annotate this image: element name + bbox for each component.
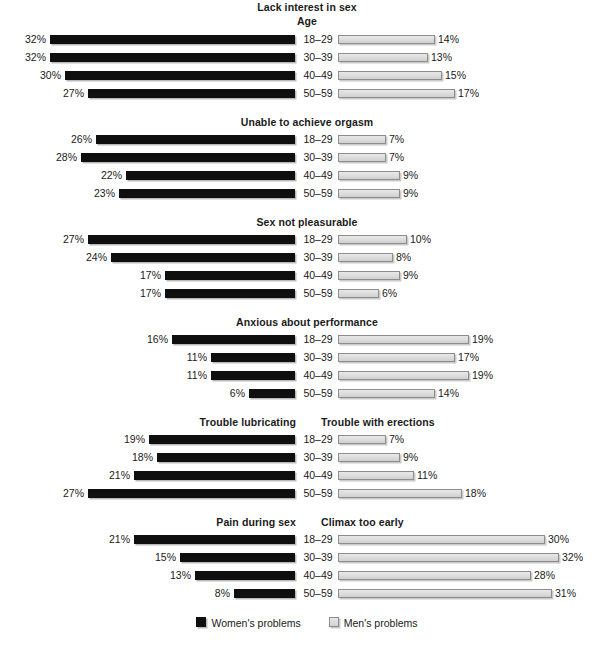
chart-row: 19%18–297% — [0, 431, 614, 449]
women-value-label: 27% — [63, 233, 84, 246]
women-bar-group: 30% — [0, 67, 296, 85]
age-group-label: 18–29 — [296, 133, 340, 146]
women-bar-group: 32% — [0, 49, 296, 67]
men-value-label: 17% — [458, 351, 479, 364]
women-bar-group: 24% — [0, 249, 296, 267]
age-group-label: 30–39 — [296, 151, 340, 164]
men-bar — [338, 489, 462, 498]
panel-6: Pain during sexClimax too early21%18–293… — [0, 515, 614, 603]
men-bar-group: 14% — [338, 385, 614, 403]
chart-row: 21%40–4911% — [0, 467, 614, 485]
panel-4: Anxious about performance16%18–2919%11%3… — [0, 315, 614, 403]
women-value-label: 16% — [147, 333, 168, 346]
men-value-label: 31% — [555, 587, 576, 600]
men-bar — [338, 71, 442, 80]
men-bar — [338, 389, 435, 398]
women-value-label: 6% — [230, 387, 245, 400]
chart-legend: Women's problemsMen's problems — [0, 615, 614, 635]
women-bar — [88, 235, 295, 244]
chart-row: 6%50–5914% — [0, 385, 614, 403]
men-bar-group: 19% — [338, 367, 614, 385]
age-group-label: 18–29 — [296, 33, 340, 46]
age-group-label: 30–39 — [296, 351, 340, 364]
women-bar-group: 17% — [0, 267, 296, 285]
legend-item-men: Men's problems — [329, 616, 418, 629]
chart-row: 23%50–599% — [0, 185, 614, 203]
age-group-label: 30–39 — [296, 51, 340, 64]
men-bar-group: 30% — [338, 531, 614, 549]
panel-subtitle-age: Age — [0, 14, 614, 28]
men-value-label: 11% — [417, 469, 437, 482]
panel-title: Unable to achieve orgasm — [0, 115, 614, 129]
women-bar — [81, 153, 295, 162]
men-bar — [338, 89, 455, 98]
men-value-label: 7% — [389, 133, 404, 146]
age-group-label: 40–49 — [296, 369, 340, 382]
men-bar-group: 10% — [338, 231, 614, 249]
women-value-label: 32% — [25, 51, 46, 64]
men-bar-group: 18% — [338, 485, 614, 503]
panel-title-block: Unable to achieve orgasm — [0, 115, 614, 130]
age-group-label: 50–59 — [296, 387, 340, 400]
chart-row: 24%30–398% — [0, 249, 614, 267]
age-group-label: 40–49 — [296, 169, 340, 182]
legend-swatch-men-icon — [329, 617, 339, 627]
panel-1: Lack interest in sexAge32%18–2914%32%30–… — [0, 0, 614, 103]
men-bar — [338, 435, 386, 444]
men-bar-group: 7% — [338, 149, 614, 167]
men-bar — [338, 371, 469, 380]
chart-row: 26%18–297% — [0, 131, 614, 149]
men-bar — [338, 135, 386, 144]
age-group-label: 18–29 — [296, 233, 340, 246]
panel-title-block: Anxious about performance — [0, 315, 614, 330]
men-value-label: 18% — [465, 487, 486, 500]
panel-title-men: Trouble with erections — [321, 415, 435, 429]
age-group-label: 40–49 — [296, 69, 340, 82]
women-bar — [149, 435, 295, 444]
women-bar-group: 21% — [0, 467, 296, 485]
women-bar — [180, 553, 295, 562]
men-bar-group: 17% — [338, 349, 614, 367]
chart-row: 13%40–4928% — [0, 567, 614, 585]
women-value-label: 23% — [94, 187, 115, 200]
panel-title-block: Pain during sexClimax too early — [0, 515, 614, 530]
women-bar-group: 8% — [0, 585, 296, 603]
women-value-label: 11% — [187, 369, 207, 382]
men-bar-group: 9% — [338, 185, 614, 203]
age-group-label: 40–49 — [296, 269, 340, 282]
men-bar-group: 13% — [338, 49, 614, 67]
age-group-label: 30–39 — [296, 451, 340, 464]
men-bar-group: 7% — [338, 131, 614, 149]
women-value-label: 17% — [140, 269, 161, 282]
men-value-label: 14% — [438, 387, 459, 400]
women-bar-group: 17% — [0, 285, 296, 303]
women-bar-group: 18% — [0, 449, 296, 467]
women-bar-group: 6% — [0, 385, 296, 403]
chart-row: 15%30–3932% — [0, 549, 614, 567]
chart-row: 16%18–2919% — [0, 331, 614, 349]
age-group-label: 50–59 — [296, 187, 340, 200]
women-value-label: 27% — [63, 487, 84, 500]
legend-label: Men's problems — [344, 617, 418, 629]
women-value-label: 18% — [132, 451, 153, 464]
chart-row: 17%50–596% — [0, 285, 614, 303]
women-bar — [165, 271, 295, 280]
women-value-label: 24% — [86, 251, 107, 264]
women-bar — [211, 371, 295, 380]
women-bar-group: 27% — [0, 231, 296, 249]
women-value-label: 27% — [63, 87, 84, 100]
men-bar-group: 17% — [338, 85, 614, 103]
men-value-label: 9% — [403, 451, 418, 464]
age-group-label: 30–39 — [296, 251, 340, 264]
women-value-label: 22% — [101, 169, 122, 182]
women-bar — [65, 71, 295, 80]
men-bar-group: 19% — [338, 331, 614, 349]
men-bar — [338, 589, 552, 598]
men-bar-group: 31% — [338, 585, 614, 603]
women-value-label: 21% — [109, 469, 130, 482]
women-value-label: 17% — [140, 287, 161, 300]
women-bar — [126, 171, 295, 180]
panel-title-men: Climax too early — [321, 515, 404, 529]
women-bar-group: 26% — [0, 131, 296, 149]
men-bar-group: 32% — [338, 549, 614, 567]
